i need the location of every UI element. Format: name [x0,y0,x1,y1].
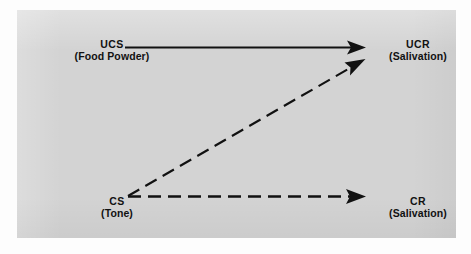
node-ucs-abbr: UCS [75,38,150,50]
figure-root: UCS (Food Powder) UCR (Salivation) CS (T… [0,0,471,254]
diagram-panel: UCS (Food Powder) UCR (Salivation) CS (T… [17,10,456,238]
node-label-cs: CS (Tone) [101,195,133,220]
node-label-cr: CR (Salivation) [389,195,447,220]
arrow-cs-to-ucr-shaft [128,65,355,196]
node-ucr-desc: (Salivation) [389,50,447,62]
node-cr-desc: (Salivation) [389,207,447,219]
node-label-ucr: UCR (Salivation) [389,38,447,63]
node-cs-abbr: CS [101,195,133,207]
arrow-ucs-to-ucr [125,41,366,55]
node-cr-abbr: CR [389,195,447,207]
arrow-cs-to-ucr-head [345,59,366,76]
node-ucs-desc: (Food Powder) [75,50,150,62]
node-label-ucs: UCS (Food Powder) [75,38,150,63]
arrow-cs-to-ucr [128,59,366,196]
node-ucr-abbr: UCR [389,38,447,50]
node-cs-desc: (Tone) [101,207,133,219]
arrow-cs-to-cr [128,189,366,204]
